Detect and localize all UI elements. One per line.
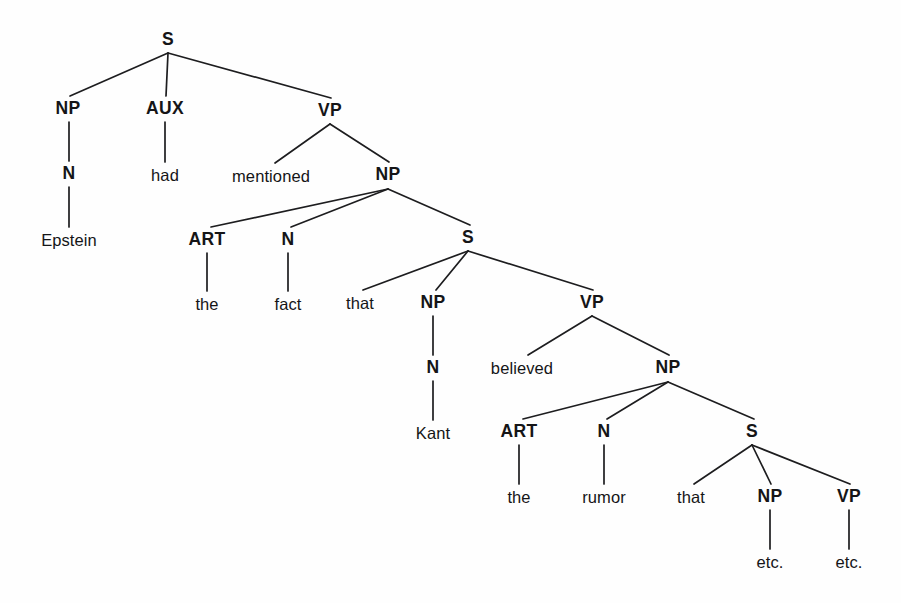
tree-node-n1: N: [62, 165, 75, 183]
tree-edges-layer: [0, 0, 901, 603]
tree-branch-np4-to-s3: [668, 382, 754, 419]
tree-node-n3: N: [426, 359, 439, 377]
tree-node-art1: ART: [188, 231, 225, 249]
tree-node-np2: NP: [375, 166, 400, 184]
tree-node-n2: N: [281, 231, 294, 249]
tree-node-vp3: VP: [837, 488, 861, 506]
tree-node-art2: ART: [500, 423, 537, 441]
edge-group: [69, 53, 850, 549]
tree-node-s2: S: [462, 229, 474, 247]
tree-node-s3: S: [746, 423, 758, 441]
tree-node-believed: believed: [491, 360, 553, 377]
tree-branch-np2-to-s2: [388, 189, 470, 225]
tree-node-rumor: rumor: [582, 489, 626, 506]
tree-node-that2: that: [677, 489, 705, 506]
tree-node-that1: that: [346, 295, 374, 312]
tree-node-np1: NP: [55, 100, 80, 118]
tree-branch-vp1-to-np2: [330, 124, 389, 162]
tree-node-np3: NP: [420, 294, 445, 312]
tree-node-fact: fact: [275, 296, 302, 313]
tree-branch-s1-to-np1: [70, 53, 168, 96]
tree-node-etc1: etc.: [757, 554, 784, 571]
tree-node-vp2: VP: [580, 294, 604, 312]
tree-node-n4: N: [597, 423, 610, 441]
tree-node-had: had: [151, 167, 179, 184]
tree-branch-s1-to-vp1: [168, 53, 331, 98]
tree-node-the1: the: [195, 296, 218, 313]
tree-branch-s1-to-aux1: [166, 53, 168, 96]
tree-node-aux1: AUX: [146, 100, 184, 118]
tree-node-epstein: Epstein: [41, 232, 97, 249]
tree-node-np4: NP: [655, 359, 680, 377]
tree-node-etc2: etc.: [836, 554, 863, 571]
tree-node-s1: S: [162, 31, 174, 49]
tree-branch-np2-to-n2: [291, 189, 388, 227]
tree-branch-np2-to-art1: [211, 189, 388, 227]
tree-branch-np4-to-n4: [607, 382, 668, 419]
tree-branch-s2-to-vp2: [468, 251, 593, 290]
tree-branch-vp2-to-np4: [592, 316, 669, 355]
tree-node-the2: the: [507, 489, 530, 506]
syntax-tree-diagram: SNPAUXVPNhadmentionedNPEpsteinARTNSthefa…: [0, 0, 901, 603]
tree-node-vp1: VP: [318, 102, 342, 120]
tree-branch-s3-to-that2: [694, 445, 752, 484]
tree-node-kant: Kant: [416, 425, 450, 442]
tree-branch-np4-to-art2: [523, 382, 668, 419]
tree-branch-vp2-to-believed: [528, 316, 592, 355]
tree-branch-vp1-to-mentioned: [275, 124, 330, 163]
tree-branch-s3-to-vp3: [752, 445, 850, 484]
tree-node-np5: NP: [757, 488, 782, 506]
tree-node-mentioned: mentioned: [232, 168, 310, 185]
